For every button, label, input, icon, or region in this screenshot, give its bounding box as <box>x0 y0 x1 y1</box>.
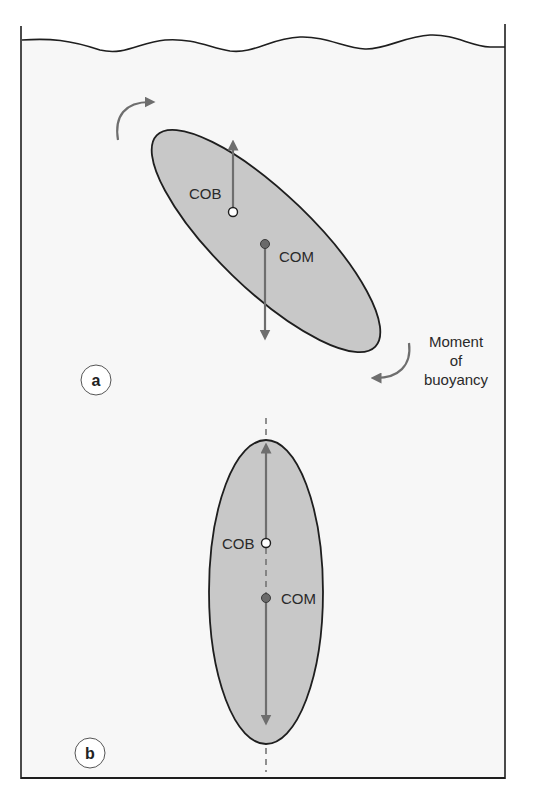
cob-label-b: COB <box>222 535 255 552</box>
cob-label: COB <box>189 185 222 202</box>
cob-point <box>229 208 238 217</box>
moment-label-line2: of <box>450 352 463 369</box>
panel-b-label: b <box>85 745 95 762</box>
moment-label-line1: Moment <box>429 333 484 350</box>
buoyancy-diagram: COB COM Moment of buoyancy a COB COM b <box>0 0 557 795</box>
com-label-b: COM <box>281 590 316 607</box>
com-point-b <box>262 594 271 603</box>
moment-label-line3: buoyancy <box>424 371 489 388</box>
panel-a-label: a <box>92 372 101 389</box>
cob-point-b <box>262 539 271 548</box>
com-label: COM <box>279 248 314 265</box>
com-point <box>261 240 270 249</box>
